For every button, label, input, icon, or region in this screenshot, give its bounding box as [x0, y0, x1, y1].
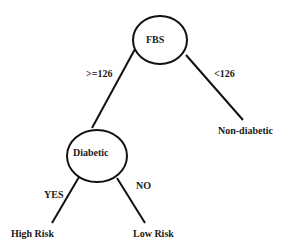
fbs-node-label: FBS [146, 35, 164, 45]
edge-fbs-to-diabetic [92, 49, 135, 128]
edge-label-yes: YES [44, 190, 63, 200]
edge-fbs-to-non-diabetic [186, 55, 243, 120]
edge-label-no: NO [136, 181, 151, 191]
edge-label-gte-126: >=126 [86, 69, 112, 79]
diabetic-node-label: Diabetic [73, 148, 109, 158]
leaf-label-high-risk: High Risk [11, 229, 54, 239]
edge-diabetic-to-high-risk [52, 177, 79, 223]
edge-label-lt-126: <126 [214, 69, 235, 79]
leaf-label-non-diabetic: Non-diabetic [218, 126, 273, 136]
leaf-label-low-risk: Low Risk [133, 229, 174, 239]
